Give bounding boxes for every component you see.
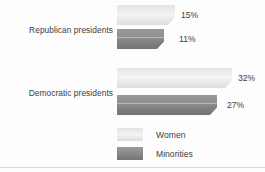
legend-item-women: Women xyxy=(117,127,193,142)
bar-row-republican-minorities: 11% xyxy=(117,29,164,49)
chart-legend: Women Minorities xyxy=(117,127,193,165)
bar-chart: Republican presidents Democratic preside… xyxy=(0,0,265,172)
bar-value-democratic-women: 32% xyxy=(238,73,255,83)
category-label-republican-presidents: Republican presidents xyxy=(0,25,113,35)
legend-label-minorities: Minorities xyxy=(156,149,193,159)
bar-row-democratic-women: 32% xyxy=(117,68,232,88)
minorities-swatch-icon xyxy=(117,147,143,160)
bar-democratic-minorities xyxy=(117,95,217,115)
bar-value-republican-minorities: 11% xyxy=(179,34,196,44)
bar-republican-minorities xyxy=(117,29,164,49)
bottom-divider xyxy=(0,167,265,168)
legend-item-minorities: Minorities xyxy=(117,146,193,161)
bar-row-republican-women: 15% xyxy=(117,5,175,25)
bar-value-democratic-minorities: 27% xyxy=(227,100,244,110)
bar-democratic-women xyxy=(117,68,232,88)
category-label-democratic-presidents: Democratic presidents xyxy=(0,88,113,98)
bar-value-republican-women: 15% xyxy=(181,10,198,20)
legend-label-women: Women xyxy=(156,130,185,140)
bar-row-democratic-minorities: 27% xyxy=(117,95,217,115)
bar-republican-women xyxy=(117,5,175,25)
women-swatch-icon xyxy=(117,128,143,141)
